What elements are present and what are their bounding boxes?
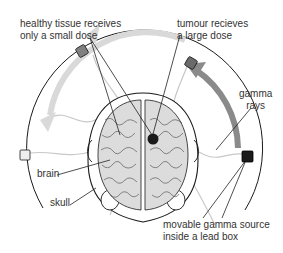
label-brain: brain: [37, 168, 59, 180]
source-box-right-active: [242, 151, 253, 162]
label-gamma-source: movable gamma source inside a lead box: [163, 219, 270, 243]
label-healthy-tissue: healthy tissue receives only a small dos…: [20, 18, 121, 42]
light-arrow-head: [40, 112, 56, 132]
source-box-left: [20, 150, 30, 160]
label-tumour: tumour recieves a large dose: [177, 18, 248, 42]
label-gamma-rays: gamma rays: [239, 88, 272, 112]
dark-arrow-body: [196, 70, 238, 148]
label-skull: skull: [50, 197, 70, 209]
tumour: [148, 134, 159, 145]
